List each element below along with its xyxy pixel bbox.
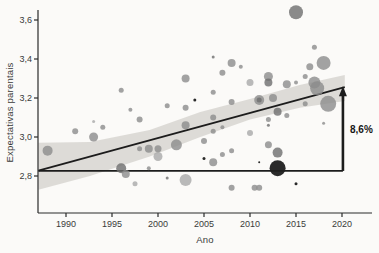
- data-point: [295, 182, 298, 185]
- data-point: [317, 56, 331, 70]
- data-point: [239, 65, 243, 69]
- x-tick-label: 1990: [56, 219, 76, 229]
- data-point: [320, 96, 336, 112]
- data-point: [294, 80, 298, 84]
- y-axis-title: Expectativas parentais: [4, 38, 15, 188]
- data-point: [209, 158, 217, 166]
- data-point: [182, 75, 190, 83]
- data-point: [247, 130, 253, 136]
- data-point: [270, 160, 286, 176]
- data-point: [257, 97, 262, 102]
- data-point: [154, 152, 163, 161]
- data-point: [258, 161, 260, 163]
- data-point: [228, 59, 236, 67]
- data-point: [211, 90, 216, 95]
- x-axis-title: Ano: [165, 234, 245, 245]
- data-point: [256, 185, 262, 191]
- data-point: [220, 125, 224, 129]
- y-tick-label: 3,0: [19, 132, 32, 142]
- x-tick-label: 2020: [332, 219, 352, 229]
- data-point: [92, 120, 95, 123]
- trend-line: [38, 87, 344, 170]
- data-point: [183, 105, 189, 111]
- data-point: [289, 5, 303, 19]
- y-tick-label: 3,2: [19, 93, 32, 103]
- data-point: [265, 141, 272, 148]
- data-point: [166, 176, 169, 179]
- data-point: [312, 45, 317, 50]
- data-point: [182, 121, 190, 129]
- data-point: [145, 145, 153, 153]
- data-point: [119, 88, 124, 93]
- data-point: [100, 125, 105, 130]
- data-point: [264, 78, 272, 86]
- data-point: [303, 101, 308, 106]
- data-point: [220, 152, 225, 157]
- data-point: [219, 70, 225, 76]
- data-point: [310, 81, 324, 95]
- data-point: [137, 146, 142, 151]
- data-point: [133, 181, 138, 186]
- x-tick-label: 1995: [102, 219, 122, 229]
- scatter-plot-canvas: 2,83,03,23,43,61990199520002005201020152…: [0, 0, 379, 253]
- data-point: [267, 124, 270, 127]
- data-point: [201, 138, 207, 144]
- data-point: [122, 170, 130, 178]
- data-point: [229, 185, 235, 191]
- data-point: [303, 74, 308, 79]
- x-tick-label: 2000: [148, 219, 168, 229]
- data-point: [283, 80, 291, 88]
- data-point: [165, 103, 170, 108]
- x-tick-label: 2005: [194, 219, 214, 229]
- data-point: [229, 99, 235, 105]
- x-tick-label: 2010: [240, 219, 260, 229]
- data-point: [203, 157, 206, 160]
- y-tick-label: 3,4: [19, 54, 32, 64]
- data-point: [137, 116, 143, 122]
- data-point: [89, 133, 98, 142]
- data-point: [247, 79, 254, 86]
- data-point: [212, 56, 215, 59]
- data-point: [128, 108, 132, 112]
- data-point: [193, 98, 196, 101]
- increase-annotation-label: 8,6%: [350, 124, 373, 135]
- data-point: [229, 148, 234, 153]
- y-tick-label: 2,8: [19, 171, 32, 181]
- data-point: [43, 146, 53, 156]
- x-tick-label: 2015: [286, 219, 306, 229]
- data-point: [266, 117, 271, 122]
- data-point: [284, 113, 289, 118]
- data-point: [155, 145, 162, 152]
- confidence-band: [38, 75, 344, 190]
- data-point: [273, 148, 283, 158]
- data-point: [210, 115, 216, 121]
- data-point: [171, 139, 182, 150]
- data-point: [269, 94, 277, 102]
- data-point: [147, 166, 151, 170]
- data-point: [306, 63, 313, 70]
- y-tick-label: 3,6: [19, 15, 32, 25]
- chart-figure: 2,83,03,23,43,61990199520002005201020152…: [0, 0, 379, 253]
- data-point: [211, 129, 216, 134]
- data-point: [180, 174, 192, 186]
- data-point: [274, 108, 282, 116]
- data-point: [322, 122, 325, 125]
- data-point: [72, 128, 78, 134]
